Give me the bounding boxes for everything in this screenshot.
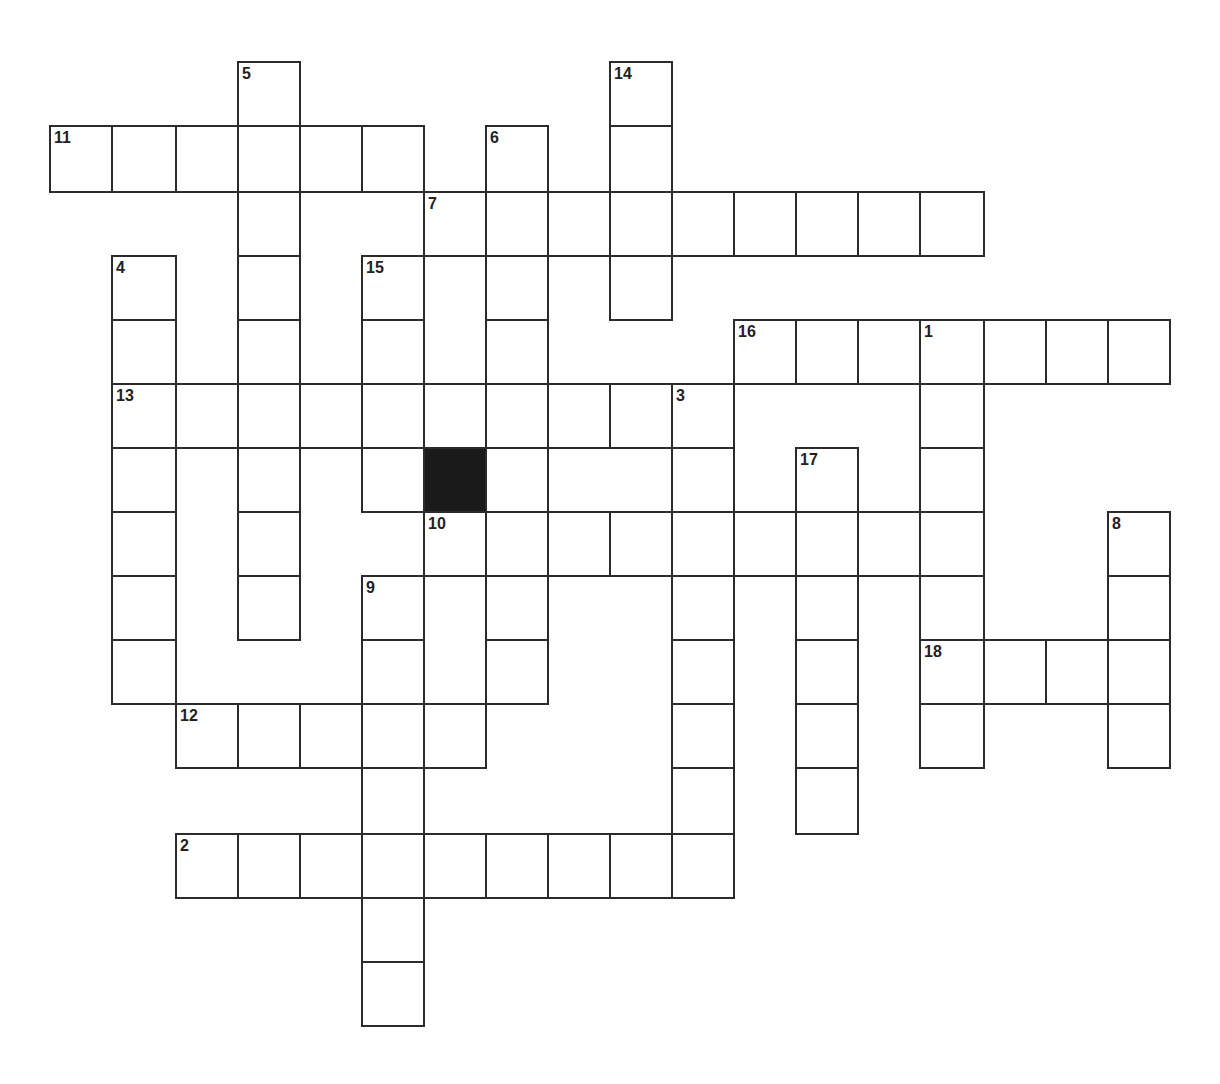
- crossword-cell[interactable]: [111, 575, 177, 641]
- crossword-cell[interactable]: [237, 575, 301, 641]
- crossword-cell[interactable]: [919, 511, 985, 577]
- crossword-cell[interactable]: [485, 383, 549, 449]
- crossword-cell[interactable]: [361, 319, 425, 385]
- crossword-cell[interactable]: [919, 575, 985, 641]
- crossword-cell[interactable]: [1045, 319, 1109, 385]
- crossword-cell[interactable]: [671, 575, 735, 641]
- crossword-cell[interactable]: 17: [795, 447, 859, 513]
- crossword-cell[interactable]: [733, 191, 797, 257]
- crossword-cell[interactable]: [485, 639, 549, 705]
- crossword-cell[interactable]: [983, 639, 1047, 705]
- crossword-cell[interactable]: [485, 833, 549, 899]
- crossword-cell[interactable]: [1107, 319, 1171, 385]
- crossword-cell[interactable]: [423, 383, 487, 449]
- crossword-cell[interactable]: [671, 639, 735, 705]
- crossword-cell[interactable]: [361, 125, 425, 193]
- crossword-cell[interactable]: 7: [423, 191, 487, 257]
- crossword-cell[interactable]: 4: [111, 255, 177, 321]
- crossword-cell[interactable]: 8: [1107, 511, 1171, 577]
- crossword-cell[interactable]: [795, 703, 859, 769]
- crossword-cell[interactable]: 5: [237, 61, 301, 127]
- crossword-cell[interactable]: [795, 511, 859, 577]
- crossword-cell[interactable]: [795, 767, 859, 835]
- crossword-cell[interactable]: [857, 511, 921, 577]
- crossword-cell[interactable]: [361, 703, 425, 769]
- crossword-cell[interactable]: [237, 191, 301, 257]
- crossword-cell[interactable]: [609, 511, 673, 577]
- crossword-cell[interactable]: [609, 191, 673, 257]
- crossword-cell[interactable]: [609, 833, 673, 899]
- crossword-cell[interactable]: [547, 191, 611, 257]
- crossword-cell[interactable]: 15: [361, 255, 425, 321]
- crossword-cell[interactable]: [111, 319, 177, 385]
- crossword-cell[interactable]: [237, 511, 301, 577]
- crossword-cell[interactable]: [175, 125, 239, 193]
- crossword-cell[interactable]: [547, 833, 611, 899]
- crossword-cell[interactable]: [671, 833, 735, 899]
- crossword-cell[interactable]: [111, 639, 177, 705]
- crossword-cell[interactable]: [485, 511, 549, 577]
- crossword-cell[interactable]: [1107, 703, 1171, 769]
- crossword-cell[interactable]: [609, 383, 673, 449]
- crossword-cell[interactable]: [795, 319, 859, 385]
- crossword-cell[interactable]: 9: [361, 575, 425, 641]
- crossword-cell[interactable]: [361, 961, 425, 1027]
- crossword-cell[interactable]: [361, 639, 425, 705]
- crossword-cell[interactable]: [857, 319, 921, 385]
- crossword-cell[interactable]: [1045, 639, 1109, 705]
- crossword-cell[interactable]: 14: [609, 61, 673, 127]
- crossword-cell[interactable]: [237, 319, 301, 385]
- crossword-cell[interactable]: [671, 191, 735, 257]
- crossword-cell[interactable]: [299, 833, 363, 899]
- crossword-cell[interactable]: [609, 125, 673, 193]
- crossword-cell[interactable]: [547, 511, 611, 577]
- crossword-cell[interactable]: [485, 191, 549, 257]
- crossword-cell[interactable]: [361, 383, 425, 449]
- crossword-cell[interactable]: 10: [423, 511, 487, 577]
- crossword-cell[interactable]: [671, 767, 735, 835]
- crossword-cell[interactable]: [111, 511, 177, 577]
- crossword-cell[interactable]: [111, 447, 177, 513]
- crossword-cell[interactable]: [299, 125, 363, 193]
- crossword-cell[interactable]: 13: [111, 383, 177, 449]
- crossword-cell[interactable]: [983, 319, 1047, 385]
- crossword-cell[interactable]: [795, 191, 859, 257]
- crossword-cell[interactable]: [795, 639, 859, 705]
- crossword-cell[interactable]: [237, 703, 301, 769]
- crossword-cell[interactable]: [485, 319, 549, 385]
- crossword-cell[interactable]: [299, 383, 363, 449]
- crossword-cell[interactable]: [485, 575, 549, 641]
- crossword-cell[interactable]: [237, 255, 301, 321]
- crossword-cell[interactable]: [671, 447, 735, 513]
- crossword-cell[interactable]: [175, 383, 239, 449]
- crossword-cell[interactable]: [795, 575, 859, 641]
- crossword-cell[interactable]: [733, 511, 797, 577]
- crossword-cell[interactable]: 12: [175, 703, 239, 769]
- crossword-cell[interactable]: 2: [175, 833, 239, 899]
- crossword-cell[interactable]: [609, 255, 673, 321]
- crossword-cell[interactable]: 6: [485, 125, 549, 193]
- crossword-cell[interactable]: [485, 447, 549, 513]
- crossword-cell[interactable]: [237, 125, 301, 193]
- crossword-cell[interactable]: [299, 703, 363, 769]
- crossword-cell[interactable]: [237, 383, 301, 449]
- crossword-cell[interactable]: [485, 255, 549, 321]
- crossword-cell[interactable]: [237, 833, 301, 899]
- crossword-cell[interactable]: [361, 833, 425, 899]
- crossword-cell[interactable]: 16: [733, 319, 797, 385]
- crossword-cell[interactable]: [857, 191, 921, 257]
- crossword-cell[interactable]: 18: [919, 639, 985, 705]
- crossword-cell[interactable]: [671, 703, 735, 769]
- crossword-cell[interactable]: [1107, 639, 1171, 705]
- crossword-cell[interactable]: [547, 383, 611, 449]
- crossword-cell[interactable]: [919, 383, 985, 449]
- crossword-cell[interactable]: [919, 703, 985, 769]
- crossword-cell[interactable]: [111, 125, 177, 193]
- crossword-cell[interactable]: [919, 447, 985, 513]
- crossword-cell[interactable]: [423, 703, 487, 769]
- crossword-cell[interactable]: 11: [49, 125, 113, 193]
- crossword-cell[interactable]: [361, 897, 425, 963]
- crossword-cell[interactable]: 3: [671, 383, 735, 449]
- crossword-cell[interactable]: [361, 447, 425, 513]
- crossword-cell[interactable]: [671, 511, 735, 577]
